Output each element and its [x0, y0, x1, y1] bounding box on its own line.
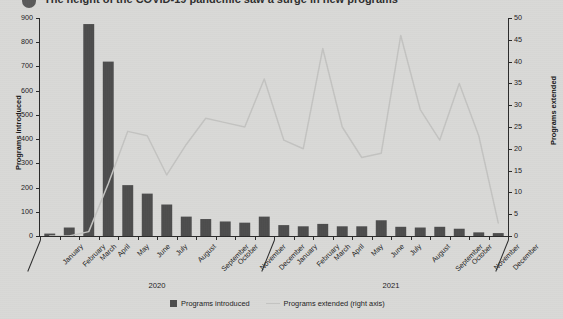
bar-september-20: [434, 227, 445, 236]
x-axis-label-15: April: [349, 242, 366, 259]
x-axis-tick: [352, 237, 353, 240]
x-axis-tick: [391, 237, 392, 240]
bar-february-13: [298, 226, 309, 236]
bar-july-6: [161, 205, 172, 236]
bar-january-12: [278, 225, 289, 236]
bar-june-17: [376, 220, 387, 236]
legend-item-programs-introduced: Programs introduced: [170, 299, 250, 308]
y-axis-left-tick-label: 300: [7, 159, 33, 167]
x-axis-label-3: April: [115, 242, 132, 259]
x-axis-tick: [255, 237, 256, 240]
x-axis-tick: [118, 237, 119, 240]
y-axis-left-tick: [36, 91, 39, 92]
x-axis-tick: [313, 237, 314, 240]
y-axis-right-tick: [509, 40, 512, 41]
y-axis-right-tick: [509, 149, 512, 150]
y-axis-left-tick-label: 900: [7, 14, 33, 22]
x-axis-tick: [216, 237, 217, 240]
year-group-separator: [27, 240, 41, 272]
y-axis-right-tick: [509, 18, 512, 19]
bar-april-3: [103, 62, 114, 236]
legend-label-programs-introduced: Programs introduced: [181, 299, 250, 308]
y-axis-right-tick: [509, 105, 512, 106]
x-axis-tick: [138, 237, 139, 240]
y-axis-left-tick-label: 0: [7, 232, 33, 240]
bar-august-19: [415, 228, 426, 236]
y-axis-right-tick-label: 25: [514, 123, 522, 131]
legend-swatch-line-icon: [266, 303, 280, 304]
y-axis-right-tick: [509, 214, 512, 215]
plot-svg: [40, 18, 508, 236]
plot-area: [40, 18, 508, 236]
chart-title-strip: The height of the COVID-19 pandemic saw …: [0, 0, 563, 13]
x-axis-tick: [196, 237, 197, 240]
y-axis-left-tick: [36, 212, 39, 213]
y-axis-right-tick: [509, 127, 512, 128]
legend-swatch-bar-icon: [170, 300, 177, 307]
y-axis-right-tick-label: 5: [514, 210, 518, 218]
x-axis-tick: [372, 237, 373, 240]
y-axis-left-tick: [36, 115, 39, 116]
bar-december-11: [259, 217, 270, 236]
x-axis-label-19: August: [430, 242, 452, 264]
y-axis-right-tick-label: 35: [514, 79, 522, 87]
y-axis-left-tick-label: 100: [7, 208, 33, 216]
bar-june-5: [142, 194, 153, 236]
year-group-label-2020: 2020: [137, 281, 177, 290]
y-axis-right-tick: [509, 236, 512, 237]
y-axis-left-tick: [36, 66, 39, 67]
x-axis-tick: [469, 237, 470, 240]
x-axis-tick: [79, 237, 80, 240]
y-axis-left-tick: [36, 139, 39, 140]
y-axis-right-tick-label: 10: [514, 188, 522, 196]
x-axis-tick: [60, 237, 61, 240]
chart-legend: Programs introduced Programs extended (r…: [170, 299, 385, 308]
bar-august-7: [181, 217, 192, 236]
y-axis-left-tick-label: 600: [7, 87, 33, 95]
legend-label-programs-extended: Programs extended (right axis): [284, 299, 385, 308]
x-axis-label-18: July: [407, 242, 422, 257]
x-axis-label-7: August: [196, 242, 218, 264]
year-group-label-2021: 2021: [371, 281, 411, 290]
y-axis-left-tick-label: 500: [7, 111, 33, 119]
bar-november-10: [239, 223, 250, 236]
y-axis-left-tick: [36, 188, 39, 189]
y-axis-left-tick-label: 200: [7, 184, 33, 192]
x-axis-tick: [430, 237, 431, 240]
y-axis-right-tick-label: 50: [514, 14, 522, 22]
page-title: The height of the COVID-19 pandemic saw …: [44, 0, 398, 5]
y-axis-right-tick-label: 45: [514, 36, 522, 44]
x-axis-tick: [177, 237, 178, 240]
x-axis-label-5: June: [155, 242, 172, 259]
y-axis-left-tick: [36, 42, 39, 43]
bar-may-4: [122, 185, 133, 236]
x-axis-label-17: June: [389, 242, 406, 259]
bar-march-14: [317, 224, 328, 236]
x-axis-label-4: May: [135, 242, 151, 258]
bar-july-18: [395, 227, 406, 236]
bar-october-21: [454, 229, 465, 236]
bar-december-23: [493, 233, 504, 236]
y-axis-right-tick: [509, 171, 512, 172]
x-axis-tick: [489, 237, 490, 240]
y-axis-right-tick: [509, 83, 512, 84]
x-axis-label-6: July: [173, 242, 188, 257]
legend-item-programs-extended: Programs extended (right axis): [266, 299, 385, 308]
x-axis-label-16: May: [369, 242, 385, 258]
y-axis-left-tick-label: 400: [7, 135, 33, 143]
y-axis-left-tick-label: 700: [7, 62, 33, 70]
bar-september-8: [200, 219, 211, 236]
bar-may-16: [356, 226, 367, 236]
x-axis-tick: [333, 237, 334, 240]
y-axis-right-tick: [509, 62, 512, 63]
bullet-icon: [22, 0, 36, 8]
y-axis-right-tick-label: 30: [514, 101, 522, 109]
y-axis-right-tick-label: 0: [514, 232, 518, 240]
bar-november-22: [473, 232, 484, 236]
x-axis-tick: [99, 237, 100, 240]
bar-april-15: [337, 226, 348, 236]
y-axis-left-tick: [36, 236, 39, 237]
y-axis-left-tick-label: 800: [7, 38, 33, 46]
x-axis-tick: [294, 237, 295, 240]
y-axis-right-tick-label: 15: [514, 167, 522, 175]
